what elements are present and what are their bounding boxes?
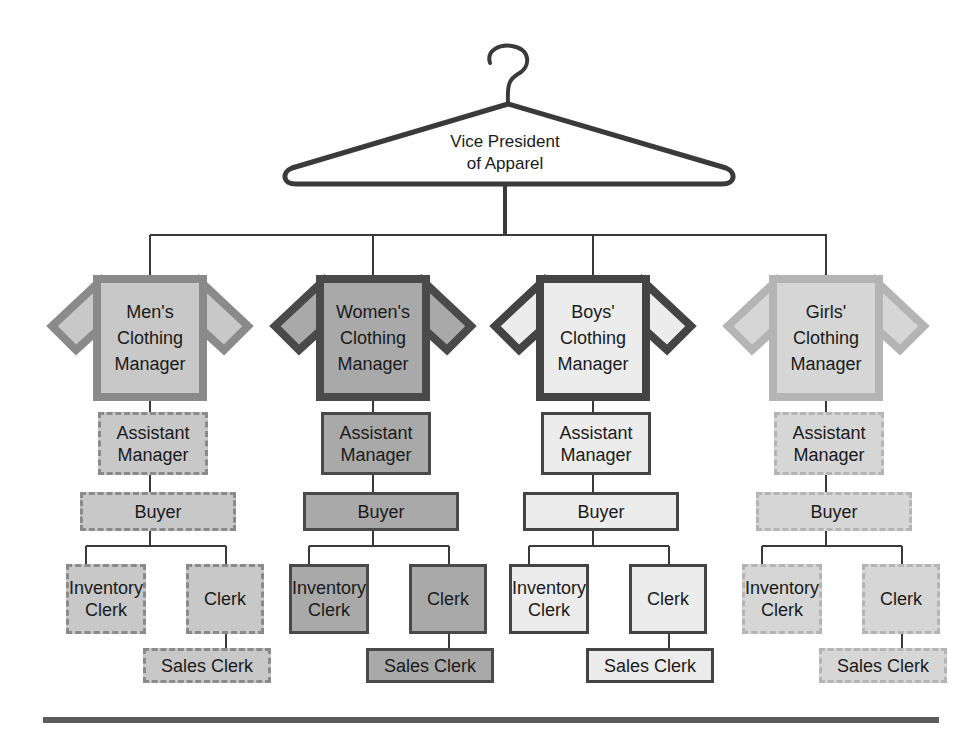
sales-clerk-box-label: Sales Clerk xyxy=(586,648,714,683)
hanger-hook-icon xyxy=(489,46,527,103)
sales-clerk-box-label: Sales Clerk xyxy=(143,648,271,683)
buyer-box-label: Buyer xyxy=(80,492,236,531)
bottom-rule xyxy=(43,717,939,723)
clerk-box-label: Clerk xyxy=(629,564,707,634)
manager-label-womens: Women's Clothing Manager xyxy=(323,283,423,393)
buyer-box-label: Buyer xyxy=(303,492,459,531)
clerk-box-label: Clerk xyxy=(186,564,264,634)
manager-label-girls: Girls' Clothing Manager xyxy=(776,283,876,393)
assistant-manager-box-label: Assistant Manager xyxy=(98,412,208,475)
buyer-box-label: Buyer xyxy=(523,492,679,531)
assistant-manager-box-label: Assistant Manager xyxy=(774,412,884,475)
clerk-box-label: Clerk xyxy=(409,564,487,634)
inventory-clerk-box-label: Inventory Clerk xyxy=(742,564,822,634)
inventory-clerk-box-label: Inventory Clerk xyxy=(289,564,369,634)
manager-label-boys: Boys' Clothing Manager xyxy=(543,283,643,393)
sales-clerk-box-label: Sales Clerk xyxy=(819,648,947,683)
clerk-box-label: Clerk xyxy=(862,564,940,634)
buyer-box-label: Buyer xyxy=(756,492,912,531)
vp-title: Vice President of Apparel xyxy=(400,128,610,178)
inventory-clerk-box-label: Inventory Clerk xyxy=(66,564,146,634)
sales-clerk-box-label: Sales Clerk xyxy=(366,648,494,683)
assistant-manager-box-label: Assistant Manager xyxy=(321,412,431,475)
assistant-manager-box-label: Assistant Manager xyxy=(541,412,651,475)
inventory-clerk-box-label: Inventory Clerk xyxy=(509,564,589,634)
manager-label-mens: Men's Clothing Manager xyxy=(100,283,200,393)
